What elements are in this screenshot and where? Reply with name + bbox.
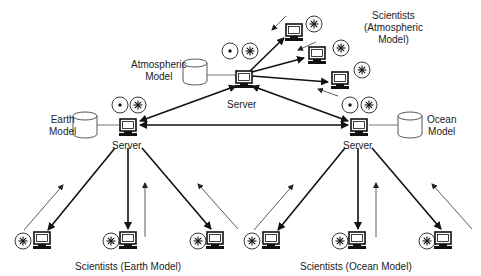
earth-scientist-computer-icon	[206, 232, 224, 249]
atmos-scientist-computer-icon	[308, 47, 326, 64]
earth-scientist-computer-icon	[33, 232, 51, 249]
dot-circle-icon	[112, 97, 128, 113]
atmospheric-model-label-line1: Atmospheric	[131, 59, 187, 71]
ocean-model-database-icon	[398, 112, 422, 138]
earth-model-line2: Model	[49, 126, 76, 138]
asterisk-circle-icon	[354, 62, 370, 78]
ocean-model-label: Ocean Model	[427, 114, 456, 138]
asterisk-circle-icon	[103, 233, 119, 249]
asterisk-circle-icon	[242, 43, 258, 59]
dot-circle-icon	[222, 43, 238, 59]
ocean-scientist-computer-icon	[262, 232, 280, 249]
atmospheric-model-label: Atmospheric Model	[131, 59, 187, 83]
ocean-model-line1: Ocean	[427, 114, 456, 126]
atmospheric-server-label: Server	[227, 99, 256, 111]
ocean-scientist-computer-icon	[348, 232, 366, 249]
ocean-scientist-computer-icon	[434, 232, 452, 249]
atmospheric-model-database-icon	[183, 59, 207, 85]
scientists-atmospheric-label: Scientists (Atmospheric Model)	[364, 10, 423, 46]
asterisk-circle-icon	[130, 97, 146, 113]
scientists-atmospheric-line3: Model)	[364, 34, 423, 46]
earth-scientist-computer-icon	[119, 232, 137, 249]
scientists-atmospheric-line1: Scientists	[364, 10, 423, 22]
asterisk-circle-icon	[419, 233, 435, 249]
scientists-earth-label: Scientists (Earth Model)	[75, 261, 181, 273]
atmospheric-model-label-line2: Model	[131, 71, 187, 83]
asterisk-circle-icon	[190, 233, 206, 249]
earth-model-database-icon	[73, 112, 97, 138]
atmos-scientist-computer-icon	[331, 72, 349, 89]
scientists-ocean-label: Scientists (Ocean Model)	[300, 261, 412, 273]
earth-server-computer-icon	[119, 119, 137, 136]
earth-server-label: Server	[112, 140, 141, 152]
ocean-server-label: Server	[343, 140, 372, 152]
asterisk-circle-icon	[306, 16, 322, 32]
ocean-server-computer-icon	[350, 119, 368, 136]
earth-model-line1: Earth	[49, 114, 76, 126]
atmos-scientist-computer-icon	[285, 24, 303, 41]
dot-circle-icon	[342, 97, 358, 113]
atmospheric-server-computer-icon	[235, 71, 253, 88]
asterisk-circle-icon	[361, 97, 377, 113]
asterisk-circle-icon	[244, 233, 260, 249]
ocean-model-line2: Model	[427, 126, 456, 138]
earth-model-label: Earth Model	[49, 114, 76, 138]
asterisk-circle-icon	[333, 40, 349, 56]
asterisk-circle-icon	[15, 233, 31, 249]
asterisk-circle-icon	[332, 233, 348, 249]
scientists-atmospheric-line2: (Atmospheric	[364, 22, 423, 34]
